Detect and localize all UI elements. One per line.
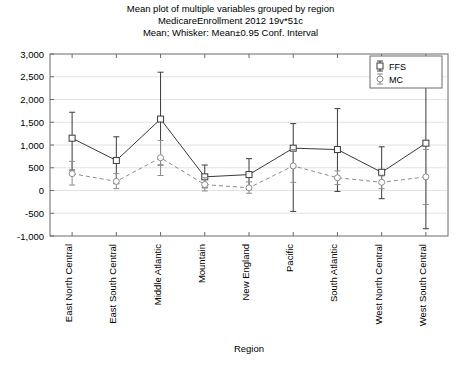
y-tick-label: -500	[25, 208, 44, 219]
data-point-marker	[246, 185, 252, 191]
data-point-marker	[113, 178, 119, 184]
x-axis-label: East South Central	[107, 244, 118, 324]
x-axis-title: Region	[234, 343, 264, 354]
data-point-marker	[423, 174, 429, 180]
legend-label-MC: MC	[389, 75, 403, 85]
x-axis-label: West North Central	[373, 244, 384, 325]
x-axis-label: Middle Atlantic	[152, 244, 163, 306]
data-point-marker	[423, 140, 429, 146]
data-point-marker	[246, 172, 252, 178]
y-tick-label: -1,000	[17, 231, 44, 242]
data-point-marker	[379, 169, 385, 175]
data-point-marker	[158, 155, 164, 161]
y-axis-ticks: 3,0002,5002,0001,5001,0005000-500-1,000	[17, 49, 54, 242]
data-point-marker	[113, 157, 119, 163]
legend-marker	[377, 63, 383, 69]
data-point-marker	[69, 171, 75, 177]
chart-plot: 3,0002,5002,0001,5001,0005000-500-1,000 …	[0, 0, 461, 371]
x-axis-label: Mountain	[196, 244, 207, 283]
data-point-marker	[379, 179, 385, 185]
y-tick-label: 2,500	[20, 71, 44, 82]
x-axis-labels: East North CentralEast South CentralMidd…	[63, 244, 428, 326]
y-tick-label: 500	[28, 162, 44, 173]
x-axis-label: New England	[240, 244, 251, 301]
chart-legend: FFSMC	[370, 56, 442, 88]
x-axis-label: South Atlantic	[328, 244, 339, 302]
x-axis-label: East North Central	[63, 244, 74, 322]
y-tick-label: 1,500	[20, 117, 44, 128]
x-axis-label: West South Central	[417, 244, 428, 326]
y-tick-label: 0	[39, 185, 44, 196]
data-point-marker	[290, 163, 296, 169]
y-tick-label: 1,000	[20, 140, 44, 151]
data-point-marker	[334, 175, 340, 181]
data-point-marker	[202, 182, 208, 188]
y-tick-label: 2,000	[20, 94, 44, 105]
data-point-marker	[69, 135, 75, 141]
x-axis-label: Pacific	[284, 244, 295, 272]
chart-root: Mean plot of multiple variables grouped …	[0, 0, 461, 371]
legend-marker	[377, 76, 383, 82]
data-point-marker	[334, 147, 340, 153]
legend-label-FFS: FFS	[389, 62, 406, 72]
y-tick-label: 3,000	[20, 49, 44, 60]
data-point-marker	[158, 116, 164, 122]
